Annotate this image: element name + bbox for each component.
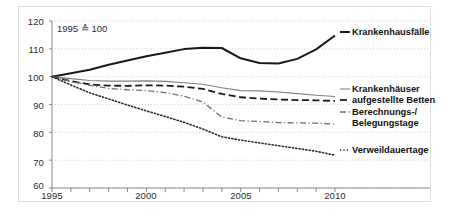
y-tick-80: 80 xyxy=(18,128,44,139)
series-label-krankenhausfaelle: Krankenhausfälle xyxy=(352,27,430,38)
x-tick-2005: 2005 xyxy=(221,190,261,201)
base-index-note: 1995 ≙ 100 xyxy=(57,23,107,34)
series-line-1 xyxy=(52,77,335,97)
series-line-0 xyxy=(52,35,335,76)
series-label-krankenhaeuser-line2: aufgestellte Betten xyxy=(352,95,435,105)
x-tick-1995: 1995 xyxy=(32,190,72,201)
series-label-verweildauertage: Verweildauertage xyxy=(352,145,428,156)
x-tick-2010: 2010 xyxy=(315,190,355,201)
series-label-berechnungstage: Berechnungs-/ Belegungstage xyxy=(352,107,419,128)
y-tick-100: 100 xyxy=(18,72,44,83)
y-tick-120: 120 xyxy=(18,16,44,27)
x-tick-2000: 2000 xyxy=(126,190,166,201)
y-tick-110: 110 xyxy=(18,44,44,55)
y-tick-70: 70 xyxy=(18,157,44,168)
series-label-krankenhaeuser-line1: Krankenhäuser xyxy=(352,84,420,94)
y-tick-90: 90 xyxy=(18,100,44,111)
series-label-krankenhaeuser: Krankenhäuser aufgestellte Betten xyxy=(352,84,435,105)
chart-figure: 120 110 100 90 80 70 60 1995 2000 2005 2… xyxy=(0,0,449,217)
series-label-berechnungstage-line2: Belegungstage xyxy=(352,118,419,128)
series-label-berechnungstage-line1: Berechnungs-/ xyxy=(352,107,417,117)
